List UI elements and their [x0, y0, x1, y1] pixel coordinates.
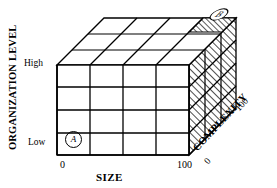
- cube-geometry: [0, 0, 277, 188]
- x-axis-tick-min: 0: [60, 160, 65, 170]
- y-axis-tick-low: Low: [28, 138, 45, 148]
- y-axis-title: ORGANIZATION LEVEL: [8, 17, 19, 157]
- cell-marker-a: A: [65, 131, 82, 148]
- x-axis-tick-max: 100: [177, 160, 192, 170]
- x-axis-title: SIZE: [96, 172, 123, 183]
- y-axis-tick-high: High: [24, 59, 43, 69]
- cube-diagram-figure: ORGANIZATION LEVEL High Low 0 100 SIZE C…: [0, 0, 277, 188]
